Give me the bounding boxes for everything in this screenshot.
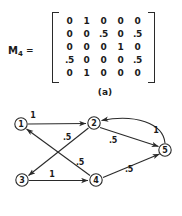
matrix-grid: 0 1 0 0 0 0 0 .5 0 .5 0 0 0 1 xyxy=(59,12,148,83)
equals-sign: = xyxy=(26,46,34,55)
matrix-cell: .5 xyxy=(129,54,146,67)
matrix-cell: 0 xyxy=(112,15,129,28)
node-5[interactable]: 5 xyxy=(159,144,171,156)
edge-4-to-1: .5 xyxy=(27,129,91,176)
node-3-label: 3 xyxy=(19,176,25,185)
matrix-cell: 0 xyxy=(61,41,78,54)
matrix-cell: 0 xyxy=(129,15,146,28)
node-4[interactable]: 4 xyxy=(90,174,102,186)
matrix-cell: 0 xyxy=(61,15,78,28)
node-4-label: 4 xyxy=(93,176,99,185)
panel-b-digraph: 1 .5 .5 1 .5 .5 xyxy=(0,104,182,216)
matrix-cell: 0 xyxy=(129,67,146,80)
matrix-cell: 0 xyxy=(78,54,95,67)
matrix-cell: 1 xyxy=(78,67,95,80)
node-5-label: 5 xyxy=(162,146,168,155)
matrix-cell: 0 xyxy=(78,41,95,54)
matrix-row: 0 0 0 1 0 xyxy=(61,41,146,54)
matrix-row: 0 1 0 0 0 xyxy=(61,15,146,28)
edge-2-to-5: .5 xyxy=(100,128,159,147)
matrix-name-letter: M xyxy=(8,45,18,56)
matrix-name-subscript: 4 xyxy=(18,50,23,58)
node-1[interactable]: 1 xyxy=(15,118,27,130)
right-bracket-icon xyxy=(148,12,155,83)
matrix-cell: 0 xyxy=(78,28,95,41)
figure-matrix-and-digraph: M4 = 0 1 0 0 0 0 0 .5 0 .5 xyxy=(0,0,182,216)
edge-label-2-3: .5 xyxy=(63,133,72,142)
matrix-row: .5 0 0 0 .5 xyxy=(61,54,146,67)
matrix-cell: .5 xyxy=(129,28,146,41)
matrix-cell: 0 xyxy=(112,54,129,67)
edge-label-2-5: .5 xyxy=(109,136,118,145)
matrix-cell: 0 xyxy=(95,15,112,28)
node-1-label: 1 xyxy=(18,120,24,129)
edge-4-to-5: .5 xyxy=(103,154,160,178)
matrix-cell: 0 xyxy=(129,41,146,54)
caption-a: (a) xyxy=(14,88,182,97)
edge-3-to-4: 1 xyxy=(29,170,88,181)
matrix-row: 0 1 0 0 0 xyxy=(61,67,146,80)
matrix-cell: 0 xyxy=(112,67,129,80)
matrix-bracketed: 0 1 0 0 0 0 0 .5 0 .5 0 0 0 1 xyxy=(52,12,155,83)
matrix-cell: 1 xyxy=(112,41,129,54)
node-2[interactable]: 2 xyxy=(88,117,100,129)
panel-a-matrix: M4 = 0 1 0 0 0 0 0 .5 0 .5 xyxy=(0,0,182,104)
edge-label-5-2: 1 xyxy=(153,126,159,135)
edge-label-4-5: .5 xyxy=(125,165,134,174)
node-3[interactable]: 3 xyxy=(16,174,28,186)
matrix-cell: .5 xyxy=(95,28,112,41)
matrix-row: 0 0 .5 0 .5 xyxy=(61,28,146,41)
edge-label-3-4: 1 xyxy=(49,170,55,179)
matrix-cell: 0 xyxy=(95,67,112,80)
matrix-cell: .5 xyxy=(61,54,78,67)
matrix-cell: 0 xyxy=(95,54,112,67)
matrix-cell: 1 xyxy=(78,15,95,28)
matrix-cell: 0 xyxy=(61,28,78,41)
matrix-cell: 0 xyxy=(61,67,78,80)
edge-label-4-1: .5 xyxy=(76,158,85,167)
left-bracket-icon xyxy=(52,12,59,83)
matrix-cell: 0 xyxy=(112,28,129,41)
digraph-canvas: 1 .5 .5 1 .5 .5 xyxy=(0,104,182,216)
edge-1-to-2: 1 xyxy=(28,111,86,125)
matrix-cell: 0 xyxy=(95,41,112,54)
edge-label-1-2: 1 xyxy=(30,111,36,120)
node-2-label: 2 xyxy=(91,119,97,128)
matrix-name-label: M4 xyxy=(8,46,23,58)
